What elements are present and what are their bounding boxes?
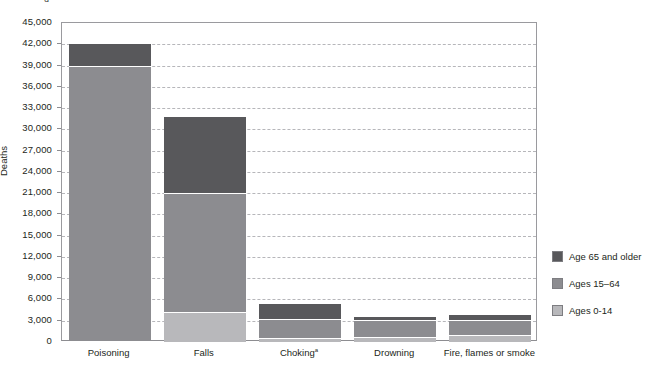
bar-segment (69, 66, 151, 341)
y-axis-tick-label: 21,000 (0, 187, 52, 197)
bar-choking[interactable] (259, 23, 341, 342)
bar-segment (164, 193, 246, 313)
y-axis-tick-label: 15,000 (0, 230, 52, 240)
bar-segment (259, 304, 341, 320)
y-axis-tick-label: 30,000 (0, 123, 52, 133)
legend-swatch-icon (552, 305, 563, 316)
bar-segment (449, 320, 531, 336)
stacked-bar-chart: u ·· 45,00042,00039,00036,00033,00030,00… (0, 0, 654, 368)
clipped-caption-fragment-left: u (44, 0, 49, 4)
y-axis-tick-label: 39,000 (0, 60, 52, 70)
plot-area (61, 22, 537, 341)
bar-segment (449, 335, 531, 342)
bar-segment (354, 320, 436, 338)
bar-falls[interactable] (164, 23, 246, 342)
bar-fire-flames-or-smoke[interactable] (449, 23, 531, 342)
legend-item[interactable]: Age 65 and older (552, 251, 641, 262)
bar-drowning[interactable] (354, 23, 436, 342)
clipped-caption-fragment-right: ·· (186, 0, 192, 3)
y-axis-tick-label: 36,000 (0, 81, 52, 91)
bar-segment (259, 319, 341, 339)
x-axis-tick-label: Fire, flames or smoke (399, 348, 579, 358)
y-axis-tick-label: 45,000 (0, 17, 52, 27)
bar-segment (354, 317, 436, 321)
legend-label: Ages 0-14 (569, 306, 612, 316)
y-axis-tick-label: 3,000 (0, 315, 52, 325)
legend-swatch-icon (552, 251, 563, 262)
legend-item[interactable]: Ages 15–64 (552, 278, 620, 289)
y-axis-tick-label: 33,000 (0, 102, 52, 112)
legend-item[interactable]: Ages 0-14 (552, 305, 612, 316)
y-axis-tick-label: 6,000 (0, 293, 52, 303)
y-axis-tick-label: 9,000 (0, 272, 52, 282)
bar-poisoning[interactable] (69, 23, 151, 342)
legend-swatch-icon (552, 278, 563, 289)
y-axis-title: Deaths (0, 146, 9, 176)
bar-segment (449, 315, 531, 321)
bar-segment (164, 117, 246, 194)
y-axis-tick-label: 18,000 (0, 208, 52, 218)
bar-segment (69, 44, 151, 67)
legend-label: Ages 15–64 (569, 279, 620, 289)
legend-label: Age 65 and older (569, 252, 641, 262)
y-axis-tick-label: 42,000 (0, 38, 52, 48)
bar-segment (164, 312, 246, 342)
y-axis-tick-label: 12,000 (0, 251, 52, 261)
y-axis-tick-label: 0 (0, 336, 52, 346)
